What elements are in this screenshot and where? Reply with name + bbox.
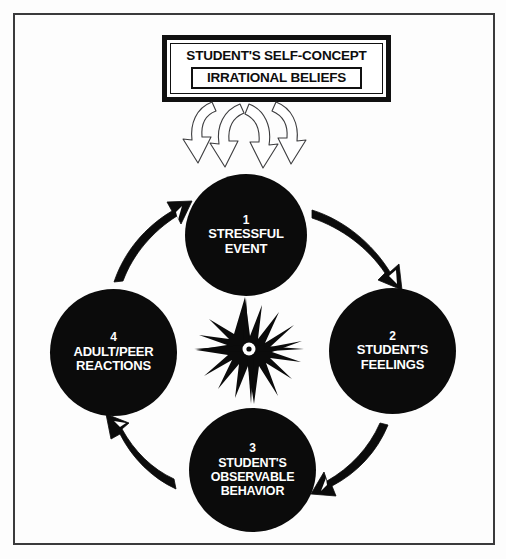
node-1-line-2: EVENT	[225, 242, 267, 257]
self-concept-label: STUDENT'S SELF-CONCEPT	[186, 47, 366, 66]
node-1-line-1: STRESSFUL	[208, 227, 283, 242]
node-3-line-1: STUDENT'S	[218, 456, 287, 470]
node-2-line-1: STUDENT'S	[357, 343, 428, 358]
node-4-line-2: REACTIONS	[76, 359, 151, 374]
irrational-beliefs-box: IRRATIONAL BELIEFS	[191, 67, 362, 90]
node-stressful-event[interactable]: 1 STRESSFUL EVENT	[186, 175, 306, 295]
node-3-line-2: OBSERVABLE	[211, 470, 295, 484]
node-students-feelings[interactable]: 2 STUDENT'S FEELINGS	[330, 289, 455, 413]
diagram-page: STUDENT'S SELF-CONCEPT IRRATIONAL BELIEF…	[0, 0, 506, 559]
node-2-line-2: FEELINGS	[361, 358, 424, 373]
node-students-observable-behavior[interactable]: 3 STUDENT'S OBSERVABLE BEHAVIOR	[190, 409, 315, 531]
node-4-line-1: ADULT/PEER	[73, 345, 153, 360]
node-2-number: 2	[389, 330, 396, 343]
node-1-number: 1	[243, 214, 250, 227]
node-3-number: 3	[249, 442, 256, 455]
header-box-inner: STUDENT'S SELF-CONCEPT IRRATIONAL BELIEF…	[170, 43, 383, 94]
node-4-number: 4	[110, 331, 117, 344]
node-3-line-3: BEHAVIOR	[221, 484, 284, 498]
irrational-beliefs-label: IRRATIONAL BELIEFS	[207, 71, 346, 85]
node-adult-peer-reactions[interactable]: 4 ADULT/PEER REACTIONS	[51, 290, 176, 415]
header-box: STUDENT'S SELF-CONCEPT IRRATIONAL BELIEF…	[162, 35, 391, 102]
